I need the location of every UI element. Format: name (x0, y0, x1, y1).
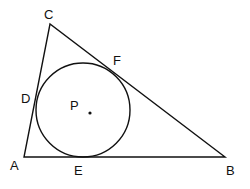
label-f: F (113, 53, 121, 68)
center-point-p (88, 111, 91, 114)
incircle (36, 63, 130, 157)
label-p: P (70, 98, 79, 113)
label-e: E (74, 163, 83, 178)
label-a: A (10, 158, 19, 173)
triangle-abc (24, 24, 225, 157)
label-c: C (44, 7, 53, 22)
label-d: D (21, 91, 30, 106)
label-b: B (226, 163, 235, 178)
geometry-figure: C A B D E F P (0, 0, 250, 189)
